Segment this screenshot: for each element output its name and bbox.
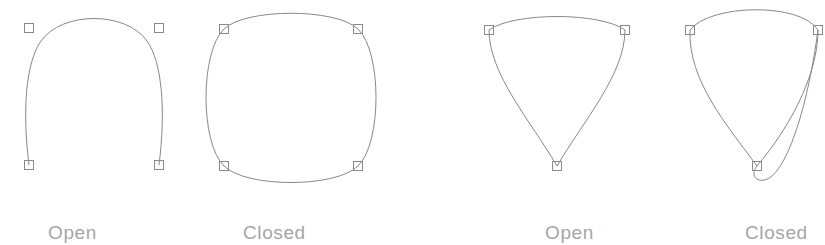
spline-curve-closed-teardrop: [690, 10, 818, 181]
panel-caption-closed-teardrop: Closed: [745, 221, 808, 245]
closed-teardrop-canvas: [0, 0, 825, 245]
panel-closed-teardrop: Closed: [660, 0, 825, 245]
spline-examples-figure: Open Closed Open: [0, 0, 825, 245]
spline-node-handles-closed-teardrop: [686, 26, 823, 171]
